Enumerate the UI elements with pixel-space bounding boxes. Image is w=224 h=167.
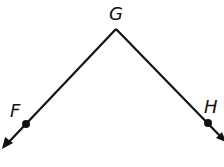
label-f: F (10, 100, 21, 121)
angle-diagram: G F H (0, 0, 224, 167)
label-h: H (204, 96, 218, 117)
label-g: G (109, 3, 123, 24)
point-f (22, 120, 30, 128)
point-h (204, 119, 212, 127)
ray-gf (2, 29, 116, 149)
